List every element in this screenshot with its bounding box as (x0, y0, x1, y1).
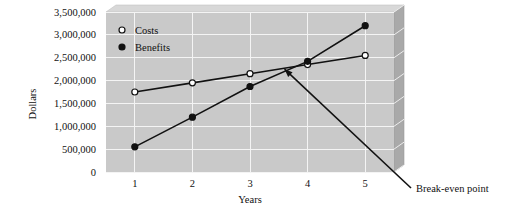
data-point-benefits (189, 114, 195, 120)
data-point-benefits (362, 23, 368, 29)
y-axis-tick-labels: 0500,0001,000,0001,500,0002,000,0002,500… (54, 7, 96, 178)
y-axis-tick-label: 1,500,000 (54, 98, 96, 109)
chart-figure: 0500,0001,000,0001,500,0002,000,0002,500… (0, 0, 519, 214)
legend-marker-benefits (119, 44, 125, 50)
y-axis-tick-label: 3,000,000 (54, 29, 96, 40)
y-axis-tick-label: 3,500,000 (54, 7, 96, 18)
x-axis-tick-label: 1 (132, 178, 137, 189)
y-axis-title-text: Dollars (27, 89, 38, 120)
x-axis-title-text: Years (238, 194, 261, 205)
y-axis-tick-label: 1,000,000 (54, 121, 96, 132)
y-axis-title: Dollars (27, 89, 38, 120)
legend-marker-costs (119, 27, 125, 33)
data-point-benefits (132, 144, 138, 150)
y-axis-tick-label: 2,000,000 (54, 75, 96, 86)
data-point-costs (362, 52, 368, 58)
y-axis-tick-label: 0 (91, 167, 96, 178)
legend-label-costs: Costs (135, 25, 158, 36)
break-even-line-chart: 0500,0001,000,0001,500,0002,000,0002,500… (0, 0, 519, 214)
data-point-benefits (247, 84, 253, 90)
plot-panel-top-face (106, 5, 404, 12)
data-point-costs (189, 80, 195, 86)
x-axis-tick-label: 2 (190, 178, 195, 189)
x-axis-tick-label: 5 (363, 178, 368, 189)
y-axis-tick-label: 2,500,000 (54, 52, 96, 63)
legend-label-benefits: Benefits (135, 42, 170, 53)
x-axis-tick-label: 3 (247, 178, 252, 189)
data-point-costs (247, 71, 253, 77)
data-point-costs (132, 89, 138, 95)
x-axis-tick-label: 4 (305, 178, 311, 189)
data-point-benefits (305, 58, 311, 64)
annotation-label: Break-even point (416, 183, 489, 194)
y-axis-tick-label: 500,000 (62, 144, 96, 155)
x-axis-tick-labels: 12345 (132, 178, 368, 189)
plot-panel-side-face (394, 5, 404, 172)
